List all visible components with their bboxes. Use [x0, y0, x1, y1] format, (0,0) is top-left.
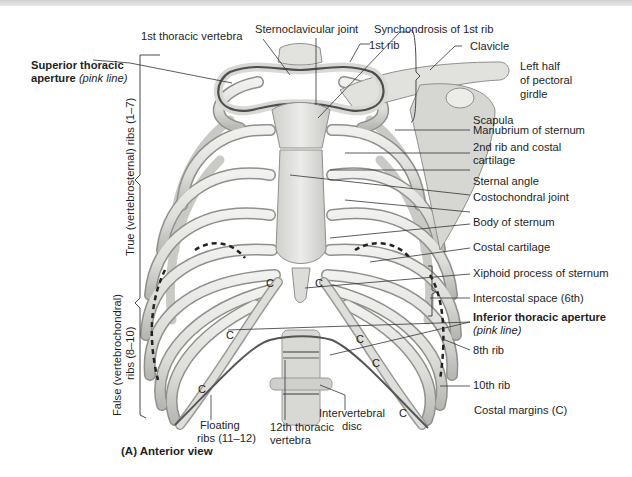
label-floating-ribs-2: ribs (11–12): [197, 432, 256, 445]
label-manubrium: Manubrium of sternum: [473, 124, 585, 137]
label-clavicle: Clavicle: [470, 40, 509, 53]
figure-caption: (A) Anterior view: [121, 445, 213, 457]
costal-margin-marker: C: [399, 407, 407, 419]
label-1st-thoracic-vertebra: 1st thoracic vertebra: [141, 30, 242, 43]
label-floating-ribs-1: Floating: [200, 419, 240, 432]
label-pectoral-girdle-3: girdle: [520, 88, 547, 101]
label-10th-rib: 10th rib: [473, 379, 510, 392]
label-xiphoid-process: Xiphoid process of sternum: [473, 267, 609, 280]
label-costal-cartilage: Costal cartilage: [473, 241, 550, 254]
label-2nd-rib-1: 2nd rib and costal: [473, 141, 561, 154]
costal-margin-marker: C: [372, 357, 380, 369]
label-intervertebral-disc-2: disc: [342, 420, 362, 433]
label-intervertebral-disc-1: Intervertebral: [319, 407, 385, 420]
label-sternoclavicular-joint: Sternoclavicular joint: [255, 23, 358, 36]
label-superior-aperture-note: (pink line): [79, 72, 128, 84]
label-2nd-rib-2: cartilage: [473, 154, 515, 167]
label-superior-aperture-line2: aperture (pink line): [31, 72, 127, 85]
label-intercostal-space: Intercostal space (6th): [473, 292, 584, 305]
label-pectoral-girdle-2: of pectoral: [520, 74, 572, 87]
label-body-of-sternum: Body of sternum: [473, 216, 554, 229]
label-pectoral-girdle-1: Left half: [520, 60, 560, 73]
label-inferior-thoracic-aperture: Inferior thoracic aperture: [473, 311, 606, 324]
label-sternal-angle: Sternal angle: [473, 175, 539, 188]
sternum: [272, 103, 330, 303]
label-false-ribs-1: False (vertebrochondral): [111, 294, 124, 416]
costal-margin-marker: C: [356, 333, 364, 345]
costal-margin-marker: C: [315, 277, 323, 289]
label-12th-thoracic-vertebra-2: vertebra: [270, 434, 311, 447]
label-12th-thoracic-vertebra-1: 12th thoracic: [270, 421, 334, 434]
costal-margin-marker: C: [198, 383, 206, 395]
label-costal-margins: Costal margins (C): [474, 404, 567, 417]
costal-margin-marker: C: [266, 277, 274, 289]
label-1st-rib: 1st rib: [369, 39, 399, 52]
costal-margin-marker: C: [226, 329, 234, 341]
label-false-ribs-2: ribs (8–10): [124, 327, 137, 380]
label-superior-aperture-word: aperture: [31, 72, 76, 84]
label-8th-rib: 8th rib: [473, 344, 504, 357]
label-costochondral-joint: Costochondral joint: [473, 191, 569, 204]
label-true-ribs: True (vertebrosternal) ribs (1–7): [124, 98, 137, 256]
label-synchondrosis-1st-rib: Synchondrosis of 1st rib: [374, 23, 493, 36]
label-inferior-aperture-note: (pink line): [473, 324, 522, 337]
label-superior-thoracic-aperture: Superior thoracic: [31, 59, 124, 72]
